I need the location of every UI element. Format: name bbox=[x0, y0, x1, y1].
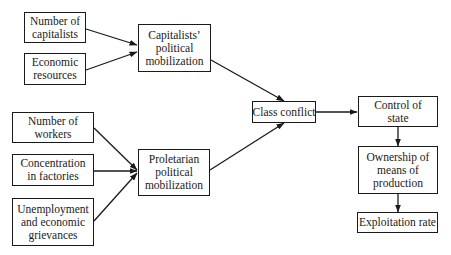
arrow-economic-resources-to-capitalists-mobilization bbox=[86, 52, 137, 70]
node-label: Economic resources bbox=[27, 56, 83, 82]
node-unemployment-and-economic-grievances: Unemployment and economic grievances bbox=[12, 198, 94, 246]
arrow-num-workers-to-proletarian-mobilization bbox=[94, 128, 137, 170]
node-label: Control of state bbox=[374, 99, 422, 125]
arrow-capitalists-mobilization-to-class-conflict bbox=[211, 60, 284, 101]
node-label: Number of workers bbox=[25, 115, 81, 141]
node-concentration-in-factories: Concentration in factories bbox=[12, 154, 94, 186]
arrow-unemployment-to-proletarian-mobilization bbox=[94, 173, 137, 221]
node-label: Number of capitalists bbox=[27, 15, 83, 41]
node-label: Class conflict bbox=[253, 106, 316, 119]
node-number-of-workers: Number of workers bbox=[12, 112, 94, 143]
node-proletarian-political-mobilization: Proletarian political mobilization bbox=[138, 149, 210, 196]
arrow-num-capitalists-to-capitalists-mobilization bbox=[86, 29, 137, 45]
node-label: Unemployment and economic grievances bbox=[15, 203, 91, 242]
node-label: Ownership of means of production bbox=[363, 151, 433, 190]
node-ownership-of-means-of-production: Ownership of means of production bbox=[358, 146, 438, 194]
node-class-conflict: Class conflict bbox=[252, 101, 316, 123]
node-label: Capitalists’ political mobilization bbox=[141, 29, 208, 68]
node-control-of-state: Control of state bbox=[358, 96, 438, 127]
node-label: Concentration in factories bbox=[15, 157, 91, 183]
node-label: Proletarian political mobilization bbox=[141, 153, 207, 192]
node-exploitation-rate: Exploitation rate bbox=[357, 212, 438, 233]
node-economic-resources: Economic resources bbox=[24, 53, 86, 85]
node-capitalists-political-mobilization: Capitalists’ political mobilization bbox=[138, 24, 211, 72]
node-number-of-capitalists: Number of capitalists bbox=[24, 12, 86, 43]
node-label: Exploitation rate bbox=[359, 216, 436, 229]
arrow-proletarian-mobilization-to-class-conflict bbox=[210, 123, 284, 170]
